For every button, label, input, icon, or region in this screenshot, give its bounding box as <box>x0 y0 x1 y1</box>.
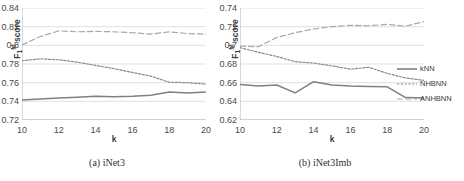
y-tick-label: 0.74 <box>1 96 19 106</box>
plot-area-a: 0.720.740.760.780.80.820.84101214161820 <box>22 8 206 120</box>
series-line-ANHBNN <box>240 22 424 47</box>
y-axis-label-a-base: F <box>12 53 22 58</box>
y-tick-label: 0.8 <box>6 40 19 50</box>
legend-swatch-NHBNN <box>396 79 418 89</box>
figure-container: F1M score 0.720.740.760.780.80.820.84101… <box>0 0 464 181</box>
legend-item-ANHBNN[interactable]: ANHBNN <box>396 91 464 106</box>
y-tick-label: 0.74 <box>219 3 237 13</box>
legend-item-kNN[interactable]: kNN <box>396 61 464 76</box>
y-tick-label: 0.78 <box>1 59 19 69</box>
legend-item-NHBNN[interactable]: NHBNN <box>396 76 464 91</box>
legend-label: kNN <box>420 64 435 73</box>
y-tick-label: 0.62 <box>219 115 237 125</box>
caption-b: (b) iNet3Imb <box>218 157 432 168</box>
legend: kNNNHBNNANHBNN <box>396 61 464 106</box>
y-tick-label: 0.84 <box>1 3 19 13</box>
y-tick-label: 0.72 <box>219 22 237 32</box>
y-tick-label: 0.76 <box>1 78 19 88</box>
y-tick-label: 0.7 <box>224 40 237 50</box>
series-line-ANHBNN <box>22 31 206 45</box>
y-tick-label: 0.82 <box>1 22 19 32</box>
chart-svg-(a) iNet3 <box>22 8 206 120</box>
caption-a: (a) iNet3 <box>0 157 214 168</box>
x-axis-label-b: k <box>240 134 424 144</box>
y-tick-label: 0.64 <box>219 96 237 106</box>
legend-label: NHBNN <box>420 79 447 88</box>
y-tick-label: 0.68 <box>219 59 237 69</box>
series-line-NHBNN <box>22 59 206 84</box>
y-tick-label: 0.72 <box>1 115 19 125</box>
legend-label: ANHBNN <box>420 94 452 103</box>
legend-swatch-ANHBNN <box>396 94 418 104</box>
y-tick-label: 0.66 <box>219 78 237 88</box>
chart-panel-a: F1M score 0.720.740.760.780.80.820.84101… <box>0 0 214 181</box>
y-axis-label-b-base: F <box>230 53 240 58</box>
series-line-kNN <box>22 92 206 100</box>
x-axis-label-a: k <box>22 134 206 144</box>
legend-swatch-kNN <box>396 64 418 74</box>
